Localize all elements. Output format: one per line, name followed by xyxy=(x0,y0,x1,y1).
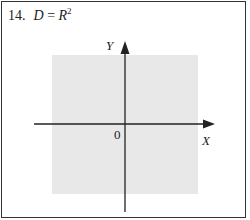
origin-label: 0 xyxy=(114,127,121,143)
y-axis-label: Y xyxy=(106,38,113,54)
x-axis-arrow-icon xyxy=(203,120,215,129)
x-axis-label: X xyxy=(202,133,210,149)
coordinate-plane xyxy=(0,0,250,220)
y-axis-arrow-icon xyxy=(121,41,130,54)
